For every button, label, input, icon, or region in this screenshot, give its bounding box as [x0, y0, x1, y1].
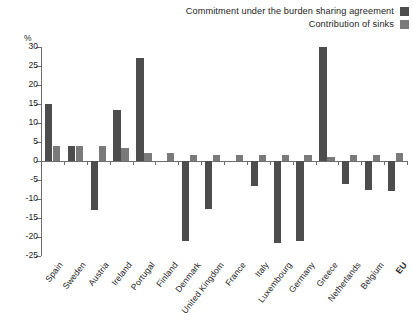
- bar: [251, 161, 258, 186]
- x-tick-mark: [316, 161, 317, 165]
- x-tick-mark: [384, 161, 385, 165]
- plot-area: 302520151050-5-10-15-20-25: [41, 47, 407, 256]
- bar: [350, 155, 357, 161]
- bar: [296, 161, 303, 241]
- y-tick-label: -20: [26, 231, 38, 241]
- y-tick: 15: [41, 104, 42, 105]
- bar: [182, 161, 189, 241]
- bar: [53, 146, 60, 161]
- bar: [91, 161, 98, 210]
- y-tick-label: 20: [28, 79, 38, 89]
- x-axis-label: Italy: [253, 260, 271, 279]
- bar-chart: Commitment under the burden sharing agre…: [0, 0, 413, 328]
- x-axis-label: Spain: [44, 260, 66, 284]
- bar: [388, 161, 395, 191]
- bar: [144, 153, 151, 161]
- y-tick: 30: [41, 47, 42, 48]
- y-tick: -15: [41, 218, 42, 219]
- bar: [236, 155, 243, 161]
- bar: [99, 146, 106, 161]
- x-axis-label: France: [224, 260, 249, 288]
- y-tick: -10: [41, 199, 42, 200]
- bar: [113, 110, 120, 161]
- y-tick: 10: [41, 123, 42, 124]
- legend-swatch-sinks: [400, 20, 409, 29]
- x-tick-mark: [155, 161, 156, 165]
- x-tick-mark: [270, 161, 271, 165]
- x-tick-mark: [64, 161, 65, 165]
- bar: [205, 161, 212, 209]
- y-tick-label: 0: [33, 155, 38, 165]
- x-tick-mark: [293, 161, 294, 165]
- bar: [304, 155, 311, 161]
- x-tick-mark: [41, 161, 42, 165]
- y-tick-label: -15: [26, 212, 38, 222]
- x-tick-mark: [338, 161, 339, 165]
- bar: [213, 155, 220, 161]
- bar: [342, 161, 349, 184]
- bar: [319, 47, 326, 161]
- bar: [327, 157, 334, 161]
- x-tick-mark: [178, 161, 179, 165]
- y-tick: 5: [41, 142, 42, 143]
- bar: [274, 161, 281, 243]
- y-tick: 20: [41, 85, 42, 86]
- x-tick-mark: [201, 161, 202, 165]
- bar: [68, 146, 75, 161]
- x-tick-mark: [110, 161, 111, 165]
- bar: [121, 148, 128, 161]
- x-tick-mark: [87, 161, 88, 165]
- y-tick-label: 10: [28, 117, 38, 127]
- bar: [396, 153, 403, 161]
- legend-swatch-commitment: [400, 7, 409, 16]
- y-tick-label: 15: [28, 98, 38, 108]
- x-tick-mark: [361, 161, 362, 165]
- y-tick-label: -5: [30, 174, 38, 184]
- bar: [365, 161, 372, 190]
- y-tick-label: 25: [28, 60, 38, 70]
- x-axis-label: Sweden: [61, 260, 88, 291]
- bar: [76, 146, 83, 161]
- legend-item-commitment: Commitment under the burden sharing agre…: [186, 6, 409, 16]
- bar: [282, 155, 289, 161]
- bar: [136, 58, 143, 161]
- bar: [45, 104, 52, 161]
- legend-item-sinks: Contribution of sinks: [309, 19, 409, 29]
- y-tick: -5: [41, 180, 42, 181]
- x-tick-mark: [224, 161, 225, 165]
- x-axis-label: EU: [393, 260, 408, 276]
- y-tick-label: -25: [26, 250, 38, 260]
- y-axis-line: [41, 47, 42, 256]
- x-axis-category-labels: SpainSwedenAustriaIrelandPortugalFinland…: [41, 256, 407, 328]
- legend-label-commitment: Commitment under the burden sharing agre…: [186, 6, 394, 16]
- y-tick-label: 30: [28, 41, 38, 51]
- x-tick-mark: [407, 161, 408, 165]
- y-tick-label: 5: [33, 136, 38, 146]
- x-tick-mark: [133, 161, 134, 165]
- x-axis-label: Austria: [86, 260, 111, 288]
- x-tick-mark: [247, 161, 248, 165]
- y-tick: 25: [41, 66, 42, 67]
- legend-label-sinks: Contribution of sinks: [309, 19, 394, 29]
- chart-legend: Commitment under the burden sharing agre…: [186, 6, 409, 29]
- bar: [167, 153, 174, 161]
- bar: [259, 155, 266, 161]
- bar: [190, 155, 197, 161]
- y-tick: -20: [41, 237, 42, 238]
- bar: [373, 155, 380, 161]
- y-tick-label: -10: [26, 193, 38, 203]
